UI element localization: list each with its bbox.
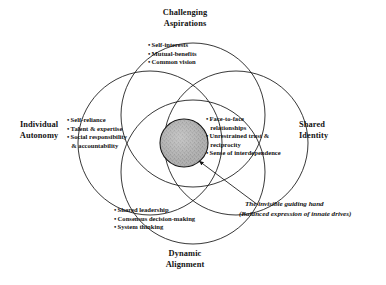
- annotation-line-2: (Balanced expression of innate drives): [239, 209, 386, 219]
- outer-label-dynamic-alignment: Dynamic Alignment: [131, 249, 239, 270]
- bullet-text: Common vision: [152, 58, 196, 65]
- bullet-item: •System thinking: [114, 223, 195, 232]
- bullet-text: Shared leadership: [118, 206, 169, 213]
- bullet-text: Social responsibility: [71, 133, 128, 140]
- bullet-text: Consensus decision-making: [118, 215, 196, 222]
- bullet-item: relationships: [206, 124, 281, 133]
- bullet-text: Sense of interdependence: [210, 149, 281, 156]
- bullet-item: reciprocity: [206, 141, 281, 150]
- bullet-text: & accountability: [71, 142, 118, 149]
- venn-diagram: Challenging Aspirations Individual Auton…: [0, 0, 386, 285]
- bullet-item: •Sense of interdependence: [206, 149, 281, 158]
- outer-label-individual-autonomy: Individual Autonomy: [8, 120, 70, 141]
- bullet-item: •Consensus decision-making: [114, 215, 195, 224]
- annotation-invisible-guiding-hand: The invisible guiding hand (Balanced exp…: [245, 199, 386, 219]
- bullet-text: Mutual-benefits: [152, 50, 197, 57]
- bullet-item: •Social responsibility: [67, 133, 127, 142]
- bullet-text: Talent & expertise: [71, 125, 123, 132]
- bullet-text: Face-to-face: [210, 115, 244, 122]
- bullet-text: Self-interests: [152, 41, 189, 48]
- bullet-text: relationships: [210, 124, 246, 131]
- bullet-item: •Unrestrained trust &: [206, 132, 281, 141]
- bullet-text: reciprocity: [210, 141, 241, 148]
- bullet-item: & accountability: [67, 142, 127, 151]
- outer-label-challenging-aspirations: Challenging Aspirations: [131, 8, 239, 29]
- bullet-text: Self-reliance: [71, 116, 106, 123]
- outer-label-shared-identity: Shared Identity: [299, 120, 365, 141]
- bullet-item: •Talent & expertise: [67, 125, 127, 134]
- bullet-item: •Self-reliance: [67, 116, 127, 125]
- bullet-item: •Common vision: [148, 58, 197, 67]
- bullet-item: •Self-interests: [148, 41, 197, 50]
- center-core-shading: [160, 119, 208, 167]
- bullet-list-shared-identity: •Face-to-facerelationships•Unrestrained …: [206, 115, 281, 158]
- bullet-item: •Face-to-face: [206, 115, 281, 124]
- bullet-text: Unrestrained trust &: [210, 132, 270, 139]
- bullet-text: System thinking: [118, 223, 164, 230]
- bullet-item: •Shared leadership: [114, 206, 195, 215]
- bullet-list-dynamic-alignment: •Shared leadership•Consensus decision-ma…: [114, 206, 195, 232]
- bullet-item: •Mutual-benefits: [148, 50, 197, 59]
- bullet-list-challenging-aspirations: •Self-interests•Mutual-benefits•Common v…: [148, 41, 197, 67]
- bullet-list-individual-autonomy: •Self-reliance•Talent & expertise•Social…: [67, 116, 127, 150]
- annotation-line-1: The invisible guiding hand: [245, 199, 386, 209]
